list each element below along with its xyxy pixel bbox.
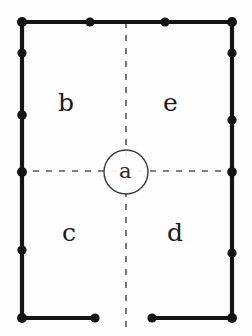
post-dot-right-1 — [227, 48, 236, 57]
post-dot-entrance-left — [90, 313, 99, 322]
post-dot-top-1 — [85, 17, 94, 26]
post-dot-corner-bottom-left — [17, 313, 27, 323]
post-dot-right-3 — [227, 167, 237, 177]
post-dot-top-2 — [160, 17, 169, 26]
post-dot-left-2 — [17, 110, 27, 120]
quadrant-label-c: c — [62, 220, 76, 245]
central-feature-label-a: a — [119, 161, 132, 182]
quadrant-label-b: b — [58, 90, 74, 115]
post-dot-right-2 — [227, 115, 236, 124]
plan-figure: b e c d a — [0, 0, 252, 336]
post-dot-corner-top-right — [227, 17, 237, 27]
post-dot-corner-top-left — [17, 17, 27, 27]
post-dot-left-3 — [17, 167, 27, 177]
post-dot-left-1 — [17, 48, 26, 57]
post-dot-left-4 — [17, 245, 26, 254]
post-dot-corner-bottom-right — [227, 313, 237, 323]
quadrant-label-e: e — [163, 90, 178, 115]
post-dot-entrance-right — [147, 313, 156, 322]
post-dot-right-4 — [227, 248, 236, 257]
quadrant-label-d: d — [167, 220, 183, 245]
